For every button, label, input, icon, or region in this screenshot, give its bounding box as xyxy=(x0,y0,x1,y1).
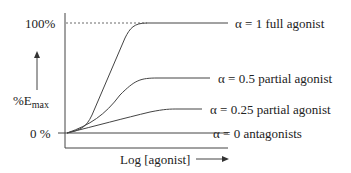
y-tick-0: 0 % xyxy=(30,127,51,140)
legend-full-agonist: α = 1 full agonist xyxy=(235,17,324,30)
legend-antagonists: α = 0 antagonists xyxy=(213,127,302,140)
y-tick-100: 100% xyxy=(25,17,55,30)
curve-partial-0.5 xyxy=(67,78,210,133)
legend-partial-0.5: α = 0.5 partial agonist xyxy=(218,72,332,85)
curve-partial-0.25 xyxy=(67,109,202,133)
y-axis-label-main: %E xyxy=(13,93,32,108)
x-axis-label: Log [agonist] xyxy=(120,153,190,166)
y-axis-label-sub: max xyxy=(32,99,49,110)
y-arrow-head xyxy=(34,51,40,58)
y-axis-label: %Emax xyxy=(13,94,49,110)
x-arrow-head xyxy=(222,156,229,162)
legend-partial-0.25: α = 0.25 partial agonist xyxy=(210,103,331,116)
